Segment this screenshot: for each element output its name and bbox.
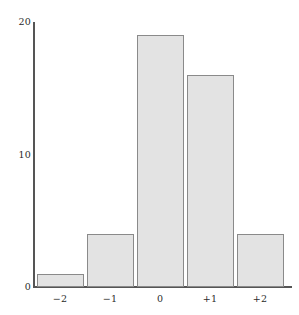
bar <box>187 75 234 287</box>
x-axis-tick-label: 0 <box>135 293 185 305</box>
bar <box>137 35 184 287</box>
x-axis-tick-label: −2 <box>35 293 85 305</box>
bars-group <box>0 0 299 315</box>
x-axis-tick-label: +2 <box>235 293 285 305</box>
bar <box>237 234 284 287</box>
bar <box>37 274 84 287</box>
bar <box>87 234 134 287</box>
x-axis-tick-label: −1 <box>85 293 135 305</box>
bar-chart: 20100 −2−10+1+2 <box>0 0 299 315</box>
x-axis-tick-label: +1 <box>185 293 235 305</box>
